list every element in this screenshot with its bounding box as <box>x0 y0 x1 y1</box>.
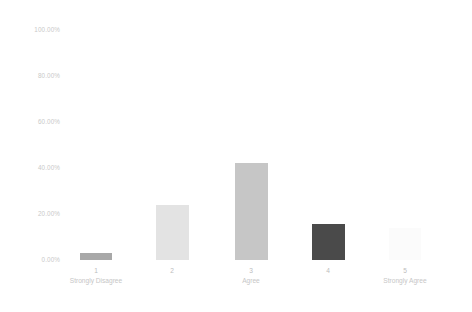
x-tick-caption: Agree <box>196 276 306 285</box>
x-tick-number: 5 <box>350 266 460 275</box>
bar-3[interactable] <box>235 163 268 260</box>
bar-chart: 100.00%80.00%60.00%40.00%20.00%0.00% 1St… <box>0 0 472 312</box>
y-tick-label: 0.00% <box>8 256 60 264</box>
y-tick-label: 100.00% <box>8 26 60 34</box>
x-tick-caption: Strongly Agree <box>350 276 460 285</box>
y-tick-label: 20.00% <box>8 210 60 218</box>
y-tick-label: 60.00% <box>8 118 60 126</box>
bar-2[interactable] <box>156 205 189 260</box>
bar-1[interactable] <box>80 253 112 260</box>
x-tick-caption: Strongly Disagree <box>41 276 151 285</box>
y-tick-label: 80.00% <box>8 72 60 80</box>
bar-5[interactable] <box>389 228 421 260</box>
x-tick-group: 5Strongly Agree <box>350 266 460 285</box>
y-tick-label: 40.00% <box>8 164 60 172</box>
bar-4[interactable] <box>312 224 345 260</box>
